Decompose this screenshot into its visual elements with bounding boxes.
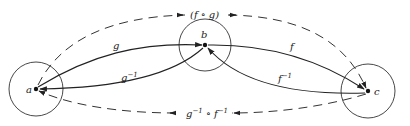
point-a xyxy=(34,87,38,91)
point-c xyxy=(366,89,370,93)
edge-label-ginv-o-finv: g−1 ∘ f−1 xyxy=(186,107,228,119)
edge-label-f: f xyxy=(289,41,296,52)
node-label-a: a xyxy=(26,84,32,95)
edge-g-arrow xyxy=(38,45,202,87)
point-b xyxy=(203,43,207,47)
edge-ginv-finv-right-dashed xyxy=(232,94,366,113)
edge-label-g-inverse: g−1 xyxy=(121,71,138,83)
edge-label-fog: (f ∘ g) xyxy=(190,9,219,20)
node-label-b: b xyxy=(201,29,207,40)
mapping-diagram: a b c g g−1 f f−1 (f ∘ g) g−1 ∘ f−1 xyxy=(0,0,410,126)
node-label-c: c xyxy=(374,86,380,97)
edge-label-f-inverse: f−1 xyxy=(277,72,292,84)
edge-label-g: g xyxy=(113,40,119,51)
